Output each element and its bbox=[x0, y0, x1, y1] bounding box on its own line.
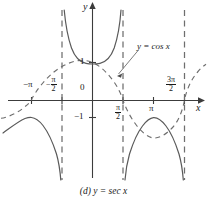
plot-canvas bbox=[0, 0, 207, 207]
annotation-arrowhead bbox=[117, 73, 122, 77]
tick-label-half-pi: π2 bbox=[115, 104, 121, 122]
tick-label-three-half-pi: 3π2 bbox=[166, 76, 176, 94]
annotation-leader-line bbox=[119, 50, 139, 74]
tick-label-neg-pi: −π bbox=[23, 80, 33, 89]
tick-label-neg-half-pi: −π2 bbox=[46, 76, 57, 94]
figure-caption: (d) y = sec x bbox=[0, 186, 207, 196]
fraction-half-pi: π2 bbox=[115, 104, 121, 122]
figure-sec-x: y x −π −π2 π2 π 3π2 1 0 −1 y = cos x (d)… bbox=[0, 0, 207, 207]
tick-label-pi: π bbox=[149, 104, 154, 113]
asymptote-group bbox=[62, 10, 185, 180]
sec-curve-group bbox=[3, 10, 183, 180]
tick-label-origin: 0 bbox=[80, 83, 85, 92]
cos-curve bbox=[1, 60, 206, 138]
sec-branch-right bbox=[125, 118, 183, 180]
fraction-denominator: 2 bbox=[51, 85, 57, 93]
annotation-leader-group bbox=[117, 50, 139, 78]
y-axis-arrowhead bbox=[89, 2, 95, 9]
fraction-denominator: 2 bbox=[166, 85, 176, 93]
sec-branch-left bbox=[3, 117, 61, 180]
tick-label-one: 1 bbox=[80, 57, 85, 66]
cos-curve-annotation: y = cos x bbox=[137, 42, 170, 51]
fraction-denominator: 2 bbox=[115, 113, 121, 121]
tick-label-neg-one: −1 bbox=[74, 112, 84, 121]
axis-label-x: x bbox=[196, 103, 200, 113]
fraction-neg-half-pi: π2 bbox=[51, 76, 57, 94]
fraction-three-half-pi: 3π2 bbox=[166, 76, 176, 94]
cos-curve-group bbox=[1, 60, 206, 138]
axis-label-y: y bbox=[83, 2, 87, 12]
